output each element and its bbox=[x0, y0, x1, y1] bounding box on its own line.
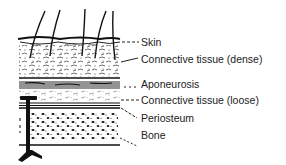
periosteum-layer bbox=[19, 103, 120, 108]
label-periosteum: Periosteum bbox=[141, 112, 194, 124]
leader-periosteum bbox=[121, 108, 137, 118]
label-skin: Skin bbox=[141, 36, 161, 48]
label-bone: Bone bbox=[141, 129, 166, 141]
label-aponeurosis: Aponeurosis bbox=[141, 78, 199, 90]
dense-connective-tissue-layer bbox=[19, 45, 120, 77]
leader-connective-dense bbox=[121, 58, 138, 62]
bone-layer bbox=[30, 111, 118, 139]
label-connective-tissue-loose: Connective tissue (loose) bbox=[141, 94, 259, 106]
label-connective-tissue-dense: Connective tissue (dense) bbox=[141, 53, 262, 65]
leader-lines bbox=[120, 42, 139, 146]
aponeurosis-layer bbox=[19, 81, 120, 88]
leader-bone bbox=[120, 138, 137, 146]
